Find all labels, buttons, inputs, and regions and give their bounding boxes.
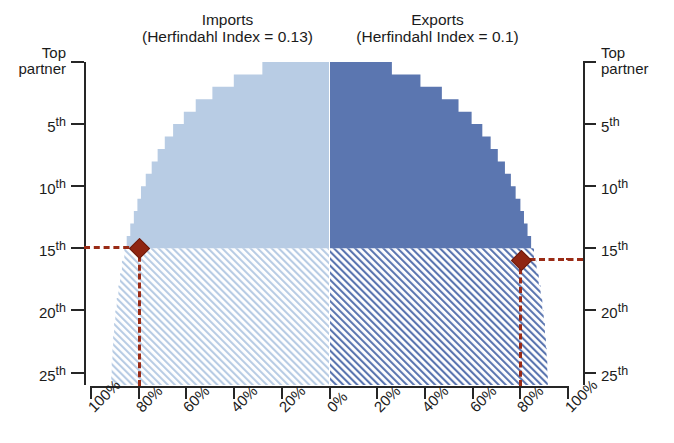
y-label-ordinal-suffix: th — [618, 301, 628, 315]
y-axis-right-tick-25 — [583, 372, 596, 374]
y-axis-left-tick-10 — [71, 185, 84, 187]
y-axis-left-tick-25 — [71, 372, 84, 374]
y-label-ordinal-suffix: th — [56, 364, 66, 378]
y-label-line1: Top — [601, 45, 649, 61]
exports-plot-half — [330, 62, 568, 385]
y-label-ordinal-suffix: th — [618, 239, 628, 253]
imports-herfindahl-label: (Herfindahl Index = 0.13) — [120, 29, 335, 46]
cropped-caption-sliver — [0, 0, 674, 9]
y-label-number: 15 — [601, 242, 618, 259]
y-axis-right-line — [583, 62, 585, 385]
y-axis-left-label-20th: 20th — [39, 301, 66, 321]
y-axis-left-tick-20 — [71, 309, 84, 311]
y-label-ordinal-suffix: th — [618, 364, 628, 378]
y-axis-right-tick-5 — [583, 123, 596, 125]
y-axis-right-label-10th: 10th — [601, 177, 628, 197]
guide-dashed-vertical-left — [138, 247, 141, 386]
imports-plot-half — [91, 62, 329, 385]
y-axis-left-label-5th: 5th — [47, 115, 66, 135]
y-axis-right-tick-20 — [583, 309, 596, 311]
y-label-number: 10 — [601, 180, 618, 197]
y-label-line2: partner — [601, 61, 649, 77]
y-axis-right-tick-15 — [583, 247, 596, 249]
cropped-caption-text — [36, 0, 38, 3]
y-axis-right-label-15th: 15th — [601, 239, 628, 259]
x-axis-label-5: 0% — [324, 389, 350, 415]
y-axis-left-label-15th: 15th — [39, 239, 66, 259]
plot-area — [91, 62, 568, 385]
y-label-number: 5 — [47, 118, 55, 135]
y-label-number: 20 — [39, 304, 56, 321]
y-label-ordinal-suffix: th — [56, 301, 66, 315]
y-axis-left-tick-5 — [71, 123, 84, 125]
y-label-ordinal-suffix: th — [609, 115, 619, 129]
y-label-number: 20 — [601, 304, 618, 321]
y-label-number: 25 — [601, 367, 618, 384]
y-label-ordinal-suffix: th — [618, 177, 628, 191]
y-axis-left-line — [84, 62, 86, 385]
exports-panel-title: Exports (Herfindahl Index = 0.1) — [330, 12, 545, 45]
imports-panel-title: Imports (Herfindahl Index = 0.13) — [120, 12, 335, 45]
y-axis-left-tick-top — [71, 61, 84, 63]
y-axis-left-tick-15 — [71, 247, 84, 249]
y-axis-left-label-top-partner: Toppartner — [18, 45, 66, 76]
y-axis-right-label-5th: 5th — [601, 115, 620, 135]
y-axis-right-label-25th: 25th — [601, 364, 628, 384]
y-label-line1: Top — [18, 45, 66, 61]
y-label-line2: partner — [18, 61, 66, 77]
exports-herfindahl-label: (Herfindahl Index = 0.1) — [330, 29, 545, 46]
y-axis-right-tick-top — [583, 61, 596, 63]
y-label-ordinal-suffix: th — [56, 177, 66, 191]
y-label-number: 10 — [39, 180, 56, 197]
guide-dashed-vertical-right — [519, 259, 522, 386]
y-label-number: 25 — [39, 367, 56, 384]
y-label-number: 15 — [39, 242, 56, 259]
y-axis-left-label-10th: 10th — [39, 177, 66, 197]
y-axis-right-label-top-partner: Toppartner — [601, 45, 649, 76]
y-label-ordinal-suffix: th — [56, 239, 66, 253]
right-axis-marker-tick — [566, 258, 573, 260]
imports-title-text: Imports — [120, 12, 335, 29]
y-axis-right-tick-10 — [583, 185, 596, 187]
y-axis-left-label-25th: 25th — [39, 364, 66, 384]
y-axis-right-label-20th: 20th — [601, 301, 628, 321]
y-label-ordinal-suffix: th — [56, 115, 66, 129]
exports-title-text: Exports — [330, 12, 545, 29]
chart-root: Imports (Herfindahl Index = 0.13) Export… — [0, 0, 674, 443]
